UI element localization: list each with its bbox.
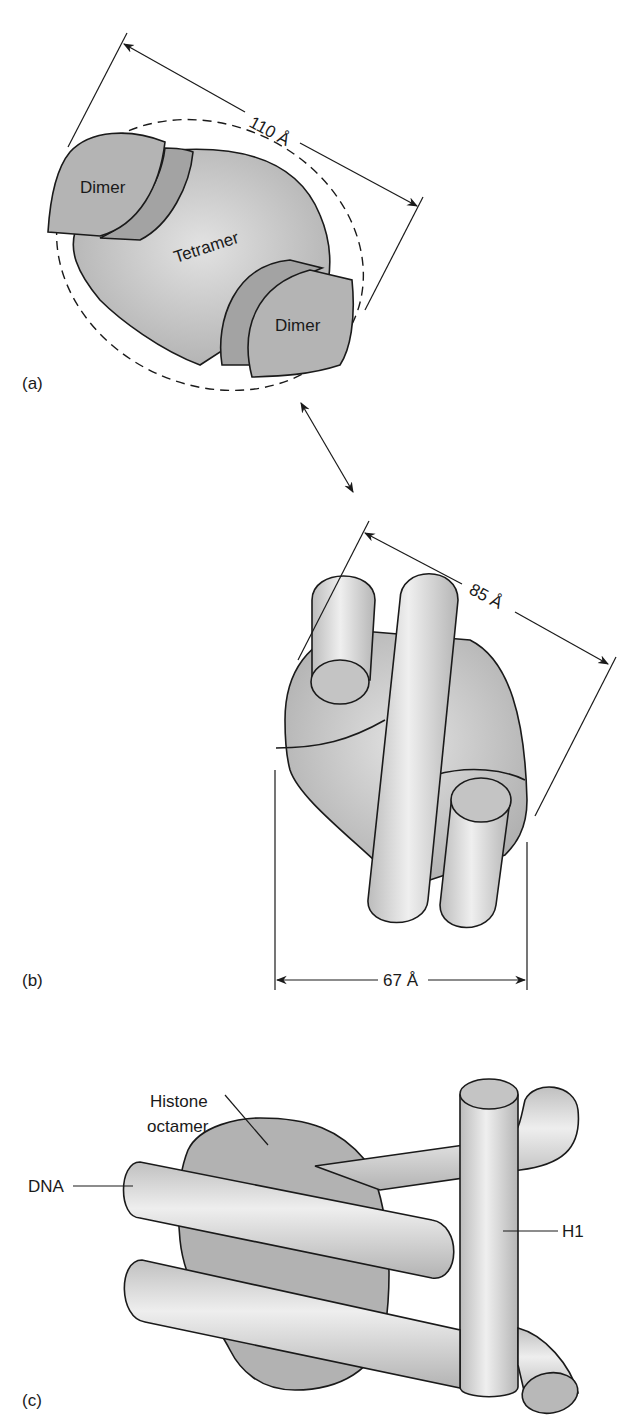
dim85-arrow-right [515, 612, 608, 664]
dimension-110-label: 110 Å [246, 113, 294, 150]
dimension-extension-left [68, 33, 127, 147]
dna-back-upper [315, 1087, 578, 1190]
dim85-extension-right [535, 657, 616, 816]
dim85-arrow-left [365, 533, 462, 584]
cylinder-short-top-end [311, 660, 369, 704]
dimer-bottom-label: Dimer [275, 316, 321, 335]
rotation-arrow [301, 403, 353, 492]
dimension-arrow-left [124, 44, 245, 112]
h1-cylinder-top [460, 1079, 518, 1109]
histone-octamer-label-line2: octamer [147, 1117, 209, 1136]
dimension-85-label: 85 Å [466, 580, 506, 614]
h1-label: H1 [562, 1222, 584, 1241]
panel-a: Dimer Tetramer Dimer 110 Å (a) [12, 33, 423, 440]
histone-octamer-label-line1: Histone [150, 1092, 208, 1111]
dimension-extension-right [365, 197, 423, 310]
dimension-67-label: 67 Å [383, 971, 419, 990]
nucleosome-figure: Dimer Tetramer Dimer 110 Å (a) 85 Å [0, 0, 636, 1425]
dimer-top-label: Dimer [80, 178, 126, 197]
panel-c: Histone octamer DNA H1 (c) [22, 1079, 584, 1418]
panel-b: 85 Å 67 Å (b) [22, 521, 616, 990]
h1-cylinder [460, 1095, 518, 1397]
panel-b-tag: (b) [22, 971, 43, 990]
dimension-arrow-right [300, 143, 417, 206]
panel-a-tag: (a) [22, 374, 43, 393]
panel-c-tag: (c) [22, 1391, 42, 1410]
dna-label: DNA [28, 1177, 65, 1196]
cylinder-short-bottom-end [451, 778, 511, 822]
